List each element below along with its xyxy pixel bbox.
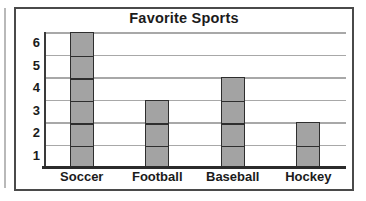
- bar-segment-divider: [222, 146, 244, 148]
- bar: [70, 32, 94, 167]
- x-axis-tick-labels: SoccerFootballBaseballHockey: [44, 170, 346, 188]
- bar-segment-divider: [297, 146, 319, 148]
- bar-segment-divider: [71, 56, 93, 58]
- y-tick-label: 2: [14, 126, 40, 139]
- chart-title: Favorite Sports: [14, 10, 354, 26]
- bar-segment-divider: [71, 101, 93, 103]
- x-tick-label: Football: [120, 170, 196, 184]
- bar-segment-divider: [222, 101, 244, 103]
- bar: [145, 100, 169, 168]
- bar-segment-divider: [71, 123, 93, 125]
- bar-segment-divider: [71, 146, 93, 148]
- x-tick-label: Baseball: [195, 170, 271, 184]
- x-tick-label: Soccer: [44, 170, 120, 184]
- x-tick-label: Hockey: [271, 170, 347, 184]
- bar-segment-divider: [146, 123, 168, 125]
- y-tick-label: 4: [14, 81, 40, 94]
- page-edge-artifact: [4, 8, 6, 188]
- bar-segment-divider: [71, 78, 93, 80]
- bar: [296, 122, 320, 167]
- y-tick-label: 5: [14, 59, 40, 72]
- bar: [221, 77, 245, 167]
- y-tick-label: 3: [14, 104, 40, 117]
- bar-segment-divider: [146, 146, 168, 148]
- y-axis-tick-labels: 6 5 4 3 2 1: [14, 32, 40, 167]
- chart-figure: Favorite Sports 6 5 4 3 2 1 SoccerFootba…: [0, 0, 366, 201]
- bar-segment-divider: [222, 123, 244, 125]
- y-axis-line: [44, 32, 46, 167]
- y-tick-label: 6: [14, 36, 40, 49]
- plot-area: [44, 32, 346, 167]
- y-tick-label: 1: [14, 149, 40, 162]
